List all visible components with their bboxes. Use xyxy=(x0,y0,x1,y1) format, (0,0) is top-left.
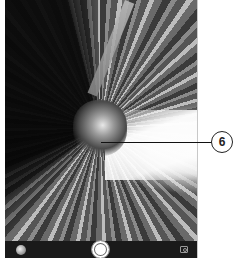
gallery-thumbnail-icon[interactable] xyxy=(16,245,26,255)
camera-viewfinder[interactable] xyxy=(5,0,197,241)
switch-camera-icon[interactable] xyxy=(180,246,188,253)
callout-label: 6 xyxy=(219,135,226,149)
camera-toolbar xyxy=(5,241,197,258)
phone-screen xyxy=(5,0,198,258)
callout-number: 6 xyxy=(211,131,233,153)
subject-blur xyxy=(73,100,127,156)
shutter-button[interactable] xyxy=(91,240,110,258)
callout-line xyxy=(101,142,212,143)
